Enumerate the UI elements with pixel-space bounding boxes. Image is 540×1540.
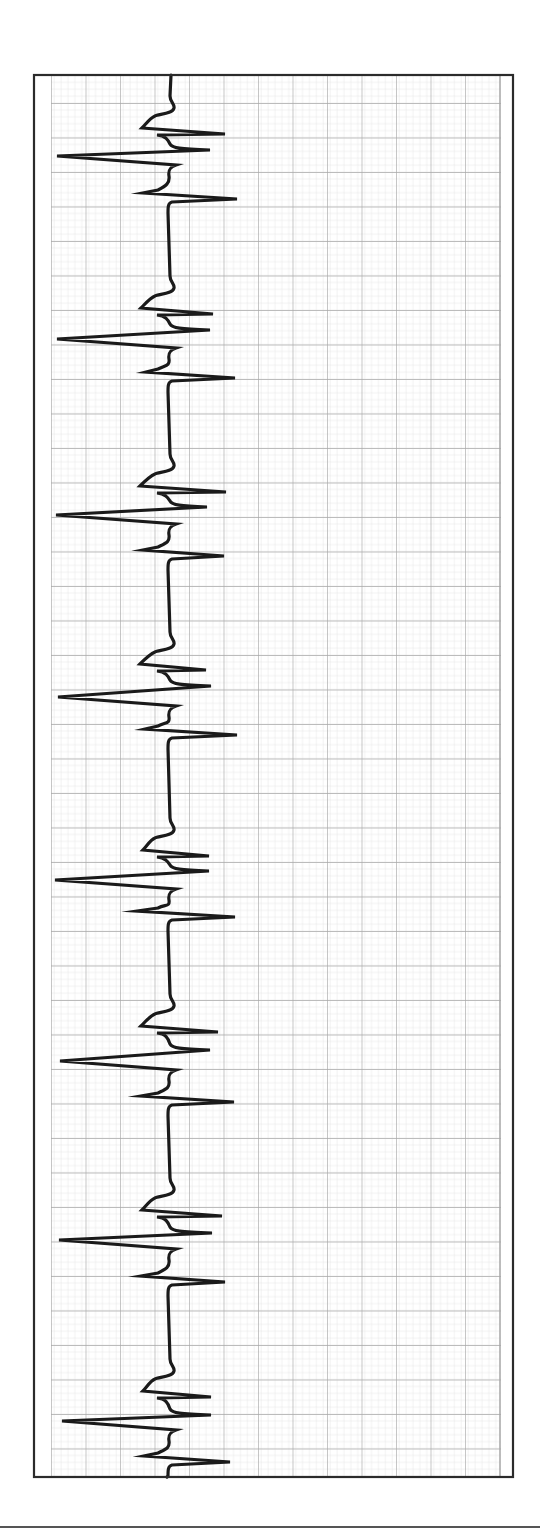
ecg-chart — [0, 0, 540, 1540]
bottom-divider-rule — [0, 1526, 540, 1528]
figure-caption — [0, 1530, 540, 1540]
grid-area — [51, 76, 501, 1476]
